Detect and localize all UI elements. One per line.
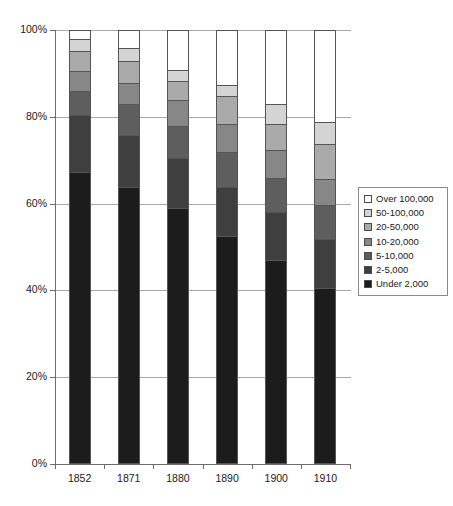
bar-segment[interactable] xyxy=(168,158,188,208)
legend-label: 10-20,000 xyxy=(376,237,419,247)
bar-segment[interactable] xyxy=(217,187,237,237)
legend-item[interactable]: 50-100,000 xyxy=(364,206,443,220)
bar-segment[interactable] xyxy=(119,187,139,463)
legend-label: 20-50,000 xyxy=(376,222,419,232)
legend-swatch-icon xyxy=(364,252,372,260)
bar-segment[interactable] xyxy=(217,31,237,85)
bar-segment[interactable] xyxy=(70,51,90,70)
bar-segment[interactable] xyxy=(119,135,139,187)
x-tick-mark-3 xyxy=(203,464,204,469)
bar-segment[interactable] xyxy=(70,71,90,92)
bar-segment[interactable] xyxy=(119,61,139,83)
bar-segment[interactable] xyxy=(266,260,286,463)
bar-segment[interactable] xyxy=(168,31,188,70)
legend-label: Over 100,000 xyxy=(376,194,434,204)
bar-segment[interactable] xyxy=(217,152,237,187)
legend-label: 50-100,000 xyxy=(376,208,424,218)
x-tick-label-1910: 1910 xyxy=(295,472,355,484)
gridline-20 xyxy=(56,377,351,378)
legend-swatch-icon xyxy=(364,209,372,217)
bar-1852[interactable] xyxy=(69,30,91,464)
x-tick-mark-5 xyxy=(301,464,302,469)
bar-1900[interactable] xyxy=(265,30,287,464)
bar-segment[interactable] xyxy=(119,31,139,48)
y-tick-label-100: 100% xyxy=(8,23,47,35)
bar-segment[interactable] xyxy=(266,104,286,123)
bar-segment[interactable] xyxy=(70,172,90,463)
bar-segment[interactable] xyxy=(70,91,90,114)
x-tick-mark-0 xyxy=(55,464,56,469)
bar-1890[interactable] xyxy=(216,30,238,464)
legend-swatch-icon xyxy=(364,280,372,288)
gridline-60 xyxy=(56,204,351,205)
gridline-80 xyxy=(56,117,351,118)
legend-swatch-icon xyxy=(364,223,372,231)
legend-item[interactable]: 2-5,000 xyxy=(364,263,443,277)
bar-1880[interactable] xyxy=(167,30,189,464)
bar-segment[interactable] xyxy=(168,126,188,158)
bar-segment[interactable] xyxy=(266,212,286,260)
y-tick-label-0: 0% xyxy=(8,457,47,469)
legend-item[interactable]: 5-10,000 xyxy=(364,249,443,263)
bar-segment[interactable] xyxy=(315,239,335,288)
bar-segment[interactable] xyxy=(315,122,335,144)
x-tick-mark-1 xyxy=(104,464,105,469)
bar-segment[interactable] xyxy=(168,100,188,126)
bar-segment[interactable] xyxy=(70,39,90,52)
bar-1871[interactable] xyxy=(118,30,140,464)
bar-segment[interactable] xyxy=(266,124,286,150)
bar-segment[interactable] xyxy=(119,83,139,105)
legend-item[interactable]: 10-20,000 xyxy=(364,235,443,249)
legend-label: Under 2,000 xyxy=(376,279,428,289)
bar-segment[interactable] xyxy=(315,288,335,463)
legend-swatch-icon xyxy=(364,238,372,246)
bar-segment[interactable] xyxy=(217,124,237,152)
legend-item[interactable]: 20-50,000 xyxy=(364,220,443,234)
gridline-40 xyxy=(56,290,351,291)
caption-strip xyxy=(0,498,453,506)
bar-segment[interactable] xyxy=(119,48,139,61)
legend-label: 5-10,000 xyxy=(376,251,414,261)
legend-label: 2-5,000 xyxy=(376,265,408,275)
bar-segment[interactable] xyxy=(266,178,286,213)
bar-segment[interactable] xyxy=(119,104,139,134)
y-tick-label-80: 80% xyxy=(8,110,47,122)
legend-item[interactable]: Under 2,000 xyxy=(364,277,443,291)
bar-segment[interactable] xyxy=(168,81,188,100)
bar-segment[interactable] xyxy=(217,236,237,463)
bar-segment[interactable] xyxy=(168,208,188,463)
plot-area xyxy=(55,30,350,464)
bar-segment[interactable] xyxy=(70,31,90,39)
bar-segment[interactable] xyxy=(266,31,286,104)
bar-1910[interactable] xyxy=(314,30,336,464)
y-tick-label-40: 40% xyxy=(8,283,47,295)
bar-segment[interactable] xyxy=(217,85,237,96)
bar-segment[interactable] xyxy=(315,31,335,122)
y-tick-label-60: 60% xyxy=(8,197,47,209)
bar-segment[interactable] xyxy=(168,70,188,81)
bar-segment[interactable] xyxy=(315,179,335,205)
bar-segment[interactable] xyxy=(70,115,90,172)
legend-item[interactable]: Over 100,000 xyxy=(364,192,443,206)
legend-swatch-icon xyxy=(364,195,372,203)
y-tick-label-20: 20% xyxy=(8,370,47,382)
x-tick-mark-4 xyxy=(252,464,253,469)
legend: Over 100,00050-100,00020-50,00010-20,000… xyxy=(358,187,448,296)
x-tick-mark-6 xyxy=(350,464,351,469)
gridline-100 xyxy=(56,30,351,31)
bar-segment[interactable] xyxy=(315,144,335,179)
bar-segment[interactable] xyxy=(266,150,286,178)
legend-swatch-icon xyxy=(364,266,372,274)
bar-segment[interactable] xyxy=(315,205,335,240)
bar-segment[interactable] xyxy=(217,96,237,124)
stacked-bar-chart: 100%80%60%40%20%0% 185218711880189019001… xyxy=(0,0,453,506)
x-tick-mark-2 xyxy=(153,464,154,469)
